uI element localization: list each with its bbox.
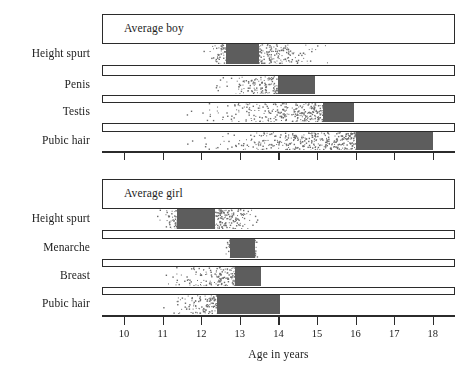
axis-tick-label: 13 [228,328,252,339]
row-label: Testis [0,105,90,117]
row-label: Height spurt [0,47,90,59]
axis-tick [394,152,395,160]
row-label: Menarche [0,241,90,253]
axis-tick [356,317,357,325]
axis-tick-label: 17 [382,328,406,339]
average-range-block [177,209,215,229]
axis-tick-label: 15 [305,328,329,339]
puberty-timeline-figure: Average boyHeight spurtPenisTestisPubic … [0,0,474,371]
axis-title: Age in years [179,348,379,360]
axis-tick-label: 16 [344,328,368,339]
axis-tick [394,317,395,325]
axis-tick [163,152,164,160]
bar-row [102,266,455,288]
axis-tick [317,317,318,325]
bar-row [102,238,455,260]
axis-tick [163,317,164,325]
axis-tick-label: 18 [421,328,445,339]
panel-title: Average girl [124,187,183,199]
bar-row [102,102,455,124]
row-label: Pubic hair [0,297,90,309]
row-label: Pubic hair [0,134,90,146]
axis-tick [278,317,279,325]
average-range-block [230,239,255,258]
bar-row [102,75,455,96]
axis-tick [240,317,241,325]
axis-tick [124,317,125,325]
average-range-block [278,76,315,94]
axis-tick [201,317,202,325]
bar-row [102,208,455,231]
bar-row [102,294,455,316]
average-range-block [235,267,261,286]
bar-row [102,131,455,152]
axis-tick [201,152,202,160]
average-range-block [356,132,433,150]
panel-title: Average boy [124,22,184,34]
row-label: Height spurt [0,212,90,224]
axis-tick-label: 12 [189,328,213,339]
average-range-block [217,295,281,314]
row-label: Breast [0,269,90,281]
range-stipple [201,44,336,64]
average-range-block [323,103,354,122]
axis-tick [433,152,434,160]
axis-tick [240,152,241,160]
row-label: Penis [0,78,90,90]
axis-tick-label: 10 [112,328,136,339]
axis-tick [317,152,318,160]
axis-tick-label: 14 [266,328,290,339]
axis-tick [433,317,434,325]
axis-tick [356,152,357,160]
axis-tick-label: 11 [151,328,175,339]
axis-tick [124,152,125,160]
bar-row [102,43,455,66]
axis-tick [278,152,279,160]
average-range-block [226,44,259,64]
